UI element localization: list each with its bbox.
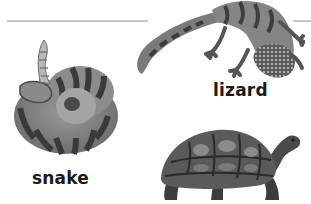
- tortoise-illustration: [155, 122, 303, 202]
- top-left-rule: [7, 20, 148, 22]
- coiled-snake-illustration: [6, 38, 122, 158]
- lizard-label: lizard: [213, 80, 268, 100]
- lizard-illustration: [130, 0, 305, 80]
- snake-label: snake: [32, 168, 89, 188]
